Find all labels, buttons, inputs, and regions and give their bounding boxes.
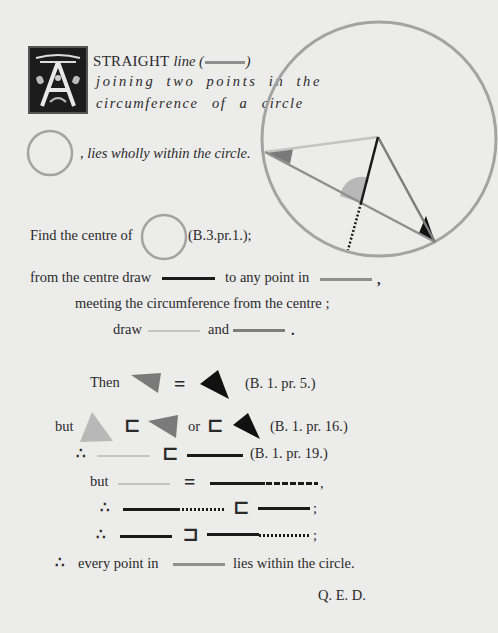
less-than-symbol: ⊏	[162, 443, 179, 463]
mid-line-symbol	[233, 329, 285, 332]
dashed-line-symbol	[266, 482, 318, 485]
qed: Q. E. D.	[318, 588, 366, 603]
dotted-line	[348, 203, 361, 250]
light-line-symbol	[118, 483, 170, 485]
therefore-symbol: ∴	[76, 446, 86, 461]
less-than-symbol: ⊏	[124, 415, 141, 435]
equals-sign: =	[184, 472, 195, 492]
find-centre-label: Find the centre of	[30, 228, 133, 243]
black-angle-icon	[233, 413, 261, 439]
black-line-symbol	[120, 535, 172, 538]
final-tail: lies within the circle.	[233, 556, 355, 571]
black-line-symbol	[258, 507, 310, 510]
semicolon: ;	[313, 501, 317, 516]
gray-line-symbol	[320, 278, 372, 281]
or-label: or	[188, 419, 200, 434]
draw-label: draw	[113, 322, 142, 337]
and-label: and	[208, 322, 229, 337]
reference-b1-pr16: (B. 1. pr. 16.)	[270, 419, 348, 434]
semicolon: ;	[313, 528, 317, 543]
black-line-symbol	[210, 482, 265, 485]
therefore-symbol: ∴	[55, 555, 65, 570]
comma: ,	[377, 272, 381, 287]
gray-angle-icon	[148, 415, 180, 439]
black-angle-icon	[200, 370, 230, 400]
meeting-label: meeting the circumference from the centr…	[75, 296, 329, 311]
gray-angle-icon	[131, 373, 163, 395]
therefore-symbol: ∴	[96, 527, 106, 542]
final-label: every point in	[78, 556, 159, 571]
black-line	[361, 137, 378, 203]
reference-b1-pr19: (B. 1. pr. 19.)	[250, 446, 328, 461]
gray-line-symbol	[173, 563, 225, 566]
therefore-symbol: ∴	[100, 500, 110, 515]
reference-b1-pr5: (B. 1. pr. 5.)	[245, 376, 315, 391]
equals-sign: =	[174, 374, 185, 394]
comma: ,	[320, 476, 324, 491]
greater-than-symbol: ⊐	[182, 524, 199, 544]
less-than-symbol: ⊏	[207, 415, 224, 435]
but-label: but	[55, 419, 74, 434]
reference-b3-pr1: (B.3.pr.1.);	[188, 228, 252, 243]
then-label: Then	[90, 375, 120, 390]
dotted-line-symbol	[259, 534, 309, 537]
black-line-symbol	[162, 277, 215, 280]
light-radius	[265, 137, 378, 152]
light-line-symbol	[148, 330, 200, 332]
to-point-label: to any point in	[225, 270, 309, 285]
less-than-symbol: ⊏	[233, 497, 250, 517]
light-line-symbol	[97, 455, 150, 457]
circle-symbol-icon	[140, 213, 188, 261]
but-label: but	[90, 474, 109, 489]
light-angle-icon	[80, 412, 114, 442]
from-centre-label: from the centre draw	[30, 270, 151, 285]
black-line-symbol	[207, 533, 259, 536]
dotted-line-symbol	[178, 508, 224, 511]
period: .	[291, 323, 295, 338]
black-line-symbol	[187, 454, 243, 457]
black-line-symbol	[123, 508, 178, 511]
